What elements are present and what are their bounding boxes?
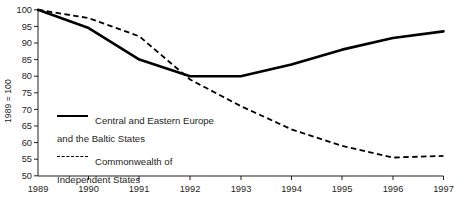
- dashed-line-swatch-icon: [57, 156, 88, 161]
- y-tick-label: 50: [10, 171, 32, 181]
- y-tick-label: 75: [10, 88, 32, 98]
- y-tick-label: 85: [10, 55, 32, 65]
- x-tick-label: 1997: [421, 184, 465, 195]
- chart-legend: Central and Eastern Europe and the Balti…: [57, 110, 272, 192]
- legend-item-central-eastern-europe: Central and Eastern Europe and the Balti…: [57, 110, 272, 146]
- solid-line-swatch-icon: [57, 115, 88, 121]
- x-tick-label: 1989: [15, 184, 61, 195]
- y-tick-marks: [34, 10, 38, 176]
- series-line-central-eastern-europe: [38, 10, 444, 76]
- x-tick-label: 1996: [370, 184, 416, 195]
- y-axis-title: 1989 = 100: [1, 56, 15, 146]
- legend-item-commonwealth-independent-states: Commonwealth of Independent States: [57, 151, 272, 187]
- y-tick-label: 55: [10, 154, 32, 164]
- y-tick-label: 70: [10, 105, 32, 115]
- y-tick-label: 95: [10, 22, 32, 32]
- y-tick-label: 90: [10, 38, 32, 48]
- x-tick-label: 1995: [319, 184, 365, 195]
- y-tick-label: 60: [10, 138, 32, 148]
- y-tick-label: 80: [10, 71, 32, 81]
- y-tick-label: 65: [10, 121, 32, 131]
- y-tick-label: 100: [10, 5, 32, 15]
- x-tick-label: 1994: [269, 184, 315, 195]
- chart-figure: 1989 = 100 100 95 90 85 80 75 70 65 60 5…: [0, 0, 465, 201]
